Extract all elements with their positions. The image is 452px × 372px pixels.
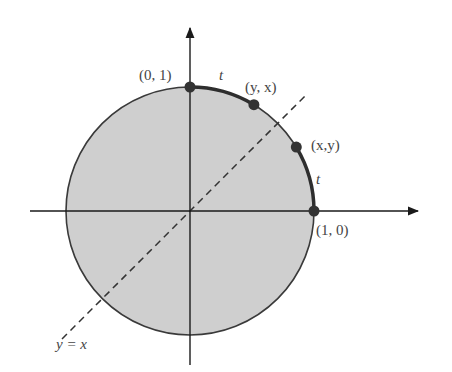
point-0-1	[185, 82, 196, 93]
label-point-yx: (y, x)	[245, 79, 277, 96]
label-point-xy: (x,y)	[311, 137, 340, 154]
label-arc-top: t	[219, 67, 224, 83]
point-x-y	[291, 142, 302, 153]
label-arc-right: t	[316, 171, 321, 187]
point-y-x	[248, 99, 259, 110]
label-right-point: (1, 0)	[316, 222, 349, 239]
unit-circle-diagram: (0, 1) t (y, x) (x,y) t (1, 0) y = x	[0, 0, 452, 372]
point-1-0	[309, 206, 320, 217]
label-line: y = x	[54, 336, 87, 352]
label-top-point: (0, 1)	[139, 67, 172, 84]
